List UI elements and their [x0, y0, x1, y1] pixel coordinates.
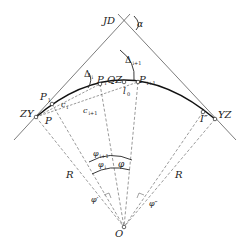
label-r-right: R — [175, 170, 183, 180]
label-phi: φ — [118, 160, 124, 169]
label-p: P — [45, 116, 52, 126]
label-i2: I″ — [200, 114, 208, 124]
label-pi1: Pi+1 — [139, 75, 156, 86]
label-ci1: ci+1 — [83, 107, 97, 116]
label-phi-prime: φ′ — [91, 196, 98, 204]
label-ci: ci — [61, 101, 68, 110]
label-l0: l0 — [123, 87, 130, 97]
label-phi-dprime: φ″ — [149, 200, 158, 208]
label-jd: JD — [103, 16, 115, 26]
label-r-left: R — [66, 170, 74, 180]
curve-setout-diagram — [0, 0, 248, 249]
label-o: O — [115, 229, 123, 239]
label-delta-i1: Δi+1 — [125, 56, 141, 66]
label-pi: Pi — [97, 75, 106, 86]
label-phi-i: φi — [98, 161, 106, 170]
label-delta-i: Δi — [84, 70, 93, 80]
label-phi-i1: φi+1 — [93, 150, 109, 159]
label-yz: YZ — [218, 110, 232, 120]
label-zy: ZY — [20, 109, 34, 119]
label-qz: QZ — [107, 75, 122, 85]
label-alpha: α — [137, 20, 143, 29]
label-p1: P1 — [40, 92, 51, 103]
